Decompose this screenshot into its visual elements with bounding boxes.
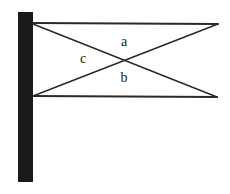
bottom-horizontal-member <box>33 96 217 97</box>
top-horizontal-member <box>33 23 218 24</box>
wall-post <box>18 12 33 182</box>
bracket-diagram: a b c <box>0 0 230 194</box>
label-b: b <box>121 70 128 85</box>
label-a: a <box>121 34 128 49</box>
label-c: c <box>80 51 86 66</box>
